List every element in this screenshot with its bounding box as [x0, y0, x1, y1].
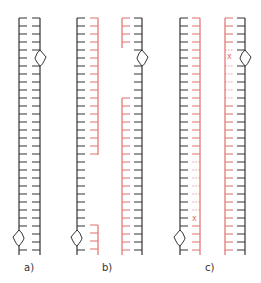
loop-bulge-icon: [71, 230, 82, 246]
loop-bulge-icon: [13, 230, 24, 246]
parental-strand-b: [134, 18, 148, 255]
parental-strand-c: [237, 18, 251, 255]
loop-bulge-icon: [137, 50, 148, 66]
mismatch-x-icon: x: [192, 214, 197, 223]
new-strand-c: x: [225, 18, 233, 255]
parental-strand-b: [71, 18, 85, 255]
panel-label-a: a): [24, 262, 34, 273]
loop-bulge-icon: [174, 230, 185, 246]
loop-bulge-icon: [240, 50, 251, 66]
new-strand-c: x: [192, 18, 200, 255]
new-strand-b: [122, 18, 130, 255]
panel-label-c: c): [205, 262, 214, 273]
dna-replication-diagram: xx: [0, 0, 261, 283]
parental-strand-a: [32, 18, 46, 255]
new-strand-b: [90, 18, 98, 255]
mismatch-x-icon: x: [227, 52, 232, 61]
panel-label-b: b): [102, 262, 112, 273]
parental-strand-c: [174, 18, 188, 255]
parental-strand-a: [13, 18, 27, 255]
loop-bulge-icon: [35, 50, 46, 66]
